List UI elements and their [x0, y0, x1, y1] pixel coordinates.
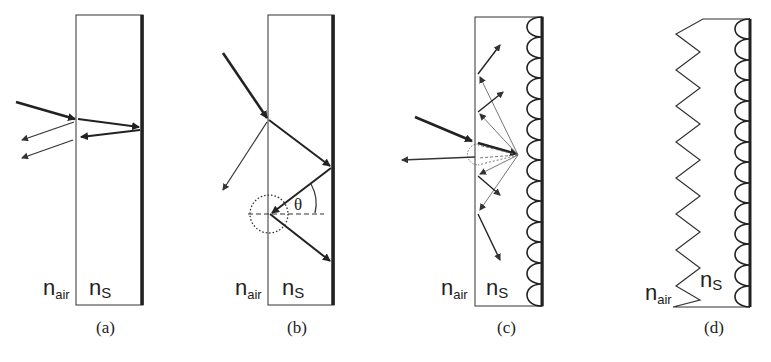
escape-ray [402, 157, 475, 160]
label-n-s: nS [282, 275, 304, 301]
reflected-ray [81, 130, 140, 137]
total-internal-reflection-ray [270, 214, 330, 261]
caption-b: (b) [287, 318, 307, 337]
caption-c: (c) [497, 318, 516, 337]
reflected-rays [478, 45, 503, 260]
label-n-s: nS [89, 275, 111, 301]
lambertian-scallops [735, 19, 750, 307]
caption-d: (d) [704, 318, 724, 337]
front-reflection-ray [22, 122, 74, 140]
panel-c: nair nS (c) [402, 17, 543, 337]
textured-front-surface [673, 19, 750, 307]
refracted-ray [78, 119, 139, 127]
caption-a: (a) [96, 318, 115, 337]
refracted-ray [269, 120, 330, 166]
lambertian-scallops [527, 17, 542, 306]
label-n-air: nair [43, 275, 70, 302]
label-n-air: nair [235, 275, 262, 302]
panel-a: nair nS (a) [16, 15, 143, 337]
escape-ray [22, 140, 73, 158]
angle-arc [311, 184, 316, 213]
panel-b: θ nair nS (b) [223, 15, 334, 337]
incident-ray [16, 102, 75, 119]
slab [76, 15, 143, 305]
label-n-air: nair [441, 275, 468, 302]
angle-theta: θ [294, 195, 302, 214]
incident-ray [415, 117, 472, 141]
label-n-s: nS [486, 275, 508, 301]
panel-d: nair nS (d) [645, 19, 750, 337]
light-trapping-diagram: nair nS (a) θ nair nS (b) [0, 0, 771, 362]
incident-ray [223, 53, 267, 118]
refracted-ray [478, 143, 517, 154]
label-n-s: nS [700, 267, 722, 293]
reflected-ray [223, 122, 267, 190]
label-n-air: nair [645, 280, 672, 307]
escape-cone [468, 144, 478, 165]
slab [268, 15, 334, 305]
